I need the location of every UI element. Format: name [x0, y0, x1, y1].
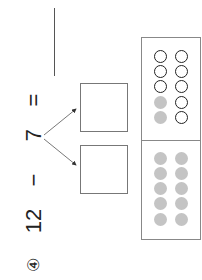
counter-open: [175, 65, 188, 78]
counter-filled: [154, 96, 167, 109]
counter-open: [175, 111, 188, 124]
counter-filled: [154, 167, 167, 180]
decomposition-box-top[interactable]: [80, 83, 128, 132]
counter-filled: [175, 152, 188, 165]
counter-open: [154, 50, 167, 63]
ten-frame-divider: [142, 140, 200, 141]
counter-filled: [154, 182, 167, 195]
counter-filled: [175, 197, 188, 210]
counter-filled: [175, 213, 188, 226]
counter-filled: [175, 182, 188, 195]
counter-filled: [154, 152, 167, 165]
counter-open: [175, 96, 188, 109]
counter-filled: [154, 111, 167, 124]
counter-open: [154, 80, 167, 93]
counter-open: [175, 50, 188, 63]
counter-filled: [154, 213, 167, 226]
decomposition-box-bottom[interactable]: [80, 145, 128, 194]
counter-filled: [175, 167, 188, 180]
counter-open: [175, 80, 188, 93]
counter-open: [154, 65, 167, 78]
counter-filled: [154, 197, 167, 210]
ten-frame: [141, 37, 201, 240]
